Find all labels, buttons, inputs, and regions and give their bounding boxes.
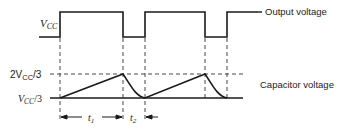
- output-voltage-trace: [39, 12, 258, 37]
- upper-threshold-label: 2VCC/3: [10, 69, 42, 82]
- timing-diagram: VCC Output voltage 2VCC/3 VCC/3 Capacito…: [0, 0, 342, 131]
- lower-threshold-label: VCC/3: [18, 93, 42, 106]
- t2-dimension: [146, 115, 158, 119]
- capacitor-voltage-trace: [60, 74, 227, 98]
- vcc-level-label: VCC: [40, 17, 58, 31]
- t2-label: t2: [130, 112, 137, 125]
- output-voltage-label: Output voltage: [265, 6, 327, 17]
- capacitor-voltage-label: Capacitor voltage: [260, 79, 334, 90]
- t1-label: t1: [88, 112, 94, 125]
- timing-diagram-svg: VCC Output voltage 2VCC/3 VCC/3 Capacito…: [0, 0, 342, 131]
- dashed-guides: [60, 38, 227, 122]
